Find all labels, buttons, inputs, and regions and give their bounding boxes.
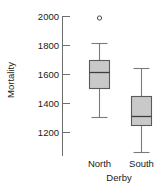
y-tick-label-2000: 2000 [38,11,59,22]
y-tick-label-1400: 1400 [38,98,59,109]
y-tick-label-1200: 1200 [38,127,59,138]
x-tick-label-north: North [88,158,111,169]
x-axis-title: Derby [106,172,132,183]
outlier-point-north [97,16,101,20]
box-group-north [90,16,110,118]
box-group-south [132,69,152,153]
boxplot-svg: 2000 1800 1600 1400 1200 Mortality [0,0,166,187]
box-south [132,97,152,126]
x-tick-label-south: South [129,158,154,169]
y-tick-label-1600: 1600 [38,69,59,80]
y-tick-label-1800: 1800 [38,40,59,51]
box-north [90,61,110,89]
boxplot-figure: 2000 1800 1600 1400 1200 Mortality [0,0,166,187]
y-axis-title: Mortality [5,62,16,98]
